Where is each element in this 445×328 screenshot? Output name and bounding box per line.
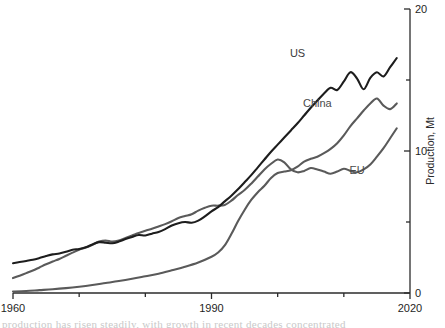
series-layer (13, 58, 397, 292)
axes-layer (13, 9, 410, 299)
series-line-us (13, 58, 397, 263)
axis-title-layer: Production, Mt (424, 117, 436, 185)
series-label-eu: EU (349, 164, 364, 176)
x-axis-tick-label: 1960 (1, 302, 25, 314)
x-axis-tick-label: 2020 (398, 302, 422, 314)
tick-labels-layer: 19601990202001020 (1, 3, 427, 314)
y-axis-tick-label: 0 (415, 287, 421, 299)
y-axis-tick-label: 20 (415, 3, 427, 15)
series-label-china: China (303, 97, 333, 109)
caption-fragment: production has risen steadily, with grow… (0, 319, 445, 328)
figure-container: USChinaEU 19601990202001020 Production, … (0, 0, 445, 328)
series-labels-layer: USChinaEU (290, 47, 365, 175)
series-line-eu (13, 128, 397, 278)
x-axis-tick-label: 1990 (199, 302, 223, 314)
series-line-china (13, 98, 397, 291)
production-line-chart: USChinaEU 19601990202001020 Production, … (0, 0, 445, 328)
y-axis-title: Production, Mt (424, 117, 436, 185)
series-label-us: US (290, 47, 305, 59)
